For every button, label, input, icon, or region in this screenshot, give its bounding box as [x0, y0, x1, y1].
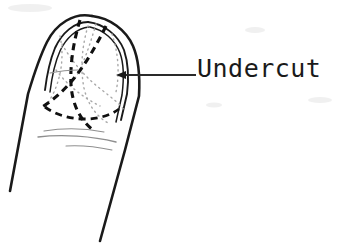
- canvas-background: [0, 0, 350, 245]
- sketch-canvas: [0, 0, 350, 245]
- undercut-label: Undercut: [197, 55, 321, 83]
- sketch-figure: Undercut: [0, 0, 350, 245]
